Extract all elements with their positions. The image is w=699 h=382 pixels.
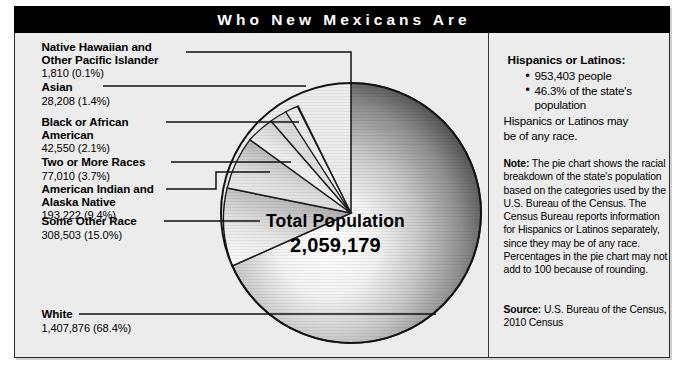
hispanic-bullet-people: 953,403 people <box>526 69 669 84</box>
hispanic-bullet-share: 46.3% of the state's population <box>526 84 669 113</box>
title-bar: Who New Mexicans Are <box>14 6 670 33</box>
legend-item-two-or-more-races: Two or More Races 77,010 (3.7%) <box>42 156 146 183</box>
hispanic-heading: Hispanics or Latinos: <box>508 53 669 67</box>
page-title: Who New Mexicans Are <box>213 11 470 29</box>
note-block: Note: The pie chart shows the racial bre… <box>504 157 669 277</box>
legend-item-black-african-american: Black or African American 42,550 (2.1%) <box>42 116 129 155</box>
content-body: Total Population 2,059,179 Native Hawaii… <box>16 33 669 357</box>
legend-label-black-african-american-line2: American <box>42 129 129 142</box>
legend-item-native-hawaiian: Native Hawaiian and Other Pacific Island… <box>42 41 159 80</box>
side-panel: Hispanics or Latinos: 953,403 people 46.… <box>502 33 669 357</box>
hispanic-bullet-share-line2: population <box>535 98 587 111</box>
legend-label-two-or-more-races: Two or More Races <box>42 156 146 169</box>
legend-item-some-other-race: Some Other Race 308,503 (15.0%) <box>42 215 137 242</box>
legend-label-asian: Asian <box>42 81 110 94</box>
legend-item-asian: Asian 28,208 (1.4%) <box>42 81 110 108</box>
hispanic-bullet-share-line1: 46.3% of the state's <box>535 84 632 97</box>
legend-value-two-or-more-races: 77,010 (3.7%) <box>42 170 146 183</box>
legend-label-some-other-race: Some Other Race <box>42 215 137 228</box>
legend-value-asian: 28,208 (1.4%) <box>42 95 110 108</box>
legend-label-american-indian-line1: American Indian and <box>42 183 154 196</box>
legend-label-american-indian-line2: Alaska Native <box>42 196 154 209</box>
legend-item-white: White 1,407,876 (68.4%) <box>42 308 132 335</box>
legend-label-native-hawaiian-line2: Other Pacific Islander <box>42 54 159 67</box>
legend-value-some-other-race: 308,503 (15.0%) <box>42 229 137 242</box>
note-text: The pie chart shows the racial breakdown… <box>504 158 668 275</box>
legend-value-native-hawaiian: 1,810 (0.1%) <box>42 67 159 80</box>
vertical-divider <box>488 33 489 357</box>
hispanic-note-line1: Hispanics or Latinos may <box>504 114 669 129</box>
legend-label-black-african-american-line1: Black or African <box>42 116 129 129</box>
legend-value-white: 1,407,876 (68.4%) <box>42 322 132 335</box>
source-label: Source: <box>504 304 542 315</box>
legend-value-black-african-american: 42,550 (2.1%) <box>42 142 129 155</box>
legend-label-white: White <box>42 308 132 321</box>
infographic-root: Who New Mexicans Are <box>0 0 699 382</box>
legend-label-native-hawaiian-line1: Native Hawaiian and <box>42 41 159 54</box>
leader-native-hawaiian <box>186 52 351 85</box>
note-label: Note: <box>504 158 530 169</box>
pie-chart: Total Population 2,059,179 Native Hawaii… <box>16 33 488 357</box>
hispanic-bullet-list: 953,403 people 46.3% of the state's popu… <box>502 69 669 113</box>
source-block: Source: U.S. Bureau of the Census, 2010 … <box>504 303 669 330</box>
hispanic-note-line2: be of any race. <box>504 129 669 144</box>
